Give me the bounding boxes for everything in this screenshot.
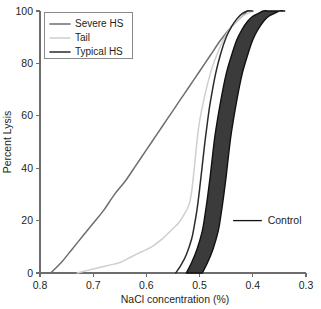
annotation-label: Control	[268, 214, 302, 226]
y-tick-label: 60	[21, 109, 33, 121]
y-tick-label: 40	[21, 162, 33, 174]
x-tick-label: 0.7	[86, 279, 101, 291]
y-axis-ticks: 020406080100	[15, 5, 40, 279]
x-tick-label: 0.5	[192, 279, 207, 291]
y-tick-label: 100	[15, 5, 33, 17]
chart-canvas: 020406080100 0.80.70.60.50.40.3 Control …	[0, 0, 321, 309]
osmotic-fragility-chart: 020406080100 0.80.70.60.50.40.3 Control …	[0, 0, 321, 309]
x-tick-label: 0.6	[139, 279, 154, 291]
y-axis-title: Percent Lysis	[1, 111, 13, 174]
legend-label: Typical HS	[75, 46, 123, 57]
x-tick-label: 0.8	[33, 279, 48, 291]
control-band	[186, 11, 284, 273]
y-tick-label: 80	[21, 57, 33, 69]
legend-label: Tail	[75, 32, 90, 43]
x-tick-label: 0.4	[245, 279, 260, 291]
y-tick-label: 0	[27, 267, 33, 279]
x-axis-title: NaCl concentration (%)	[121, 293, 230, 305]
x-tick-label: 0.3	[299, 279, 314, 291]
y-tick-label: 20	[21, 214, 33, 226]
x-axis-ticks: 0.80.70.60.50.40.3	[33, 273, 314, 291]
control-annotation: Control	[233, 214, 301, 226]
control-band-area	[186, 11, 284, 273]
legend-label: Severe HS	[75, 18, 124, 29]
legend: Severe HSTailTypical HS	[44, 12, 132, 58]
